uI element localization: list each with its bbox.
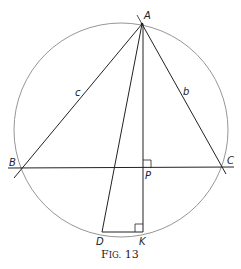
label-d: D [96, 236, 104, 247]
caption-number: 13 [125, 248, 139, 261]
tick-above-a [137, 15, 142, 24]
side-c-ab [14, 24, 142, 178]
label-a: A [143, 10, 151, 21]
point-a-dot [141, 23, 144, 26]
side-b-ac [142, 24, 226, 174]
caption-prefix-small: IG. [109, 250, 122, 260]
right-angle-k [135, 224, 143, 232]
label-c-point: C [227, 155, 234, 166]
label-p: P [145, 170, 152, 181]
base-bc [8, 167, 234, 168]
figure-caption: FIG. 13 [101, 248, 139, 261]
label-k: K [139, 236, 147, 247]
geometry-diagram: A B C P D K c b FIG. 13 [0, 0, 241, 269]
label-side-b: b [183, 86, 189, 97]
label-side-c: c [75, 87, 81, 98]
line-ad [102, 24, 142, 232]
label-b: B [9, 157, 16, 168]
right-angle-p [143, 160, 151, 168]
circumcircle [14, 23, 228, 237]
